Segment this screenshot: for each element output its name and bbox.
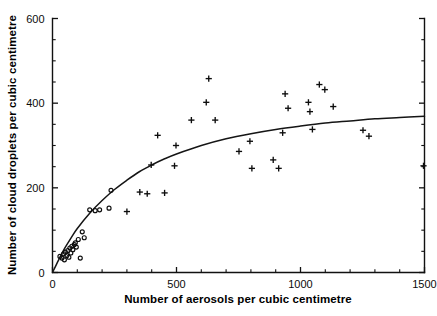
data-point-plus: [307, 109, 313, 115]
data-point-circle: [78, 256, 82, 260]
series-plus: [124, 76, 427, 215]
y-tick-label: 400: [26, 97, 44, 109]
data-point-plus: [276, 165, 282, 171]
data-point-plus: [155, 132, 161, 138]
y-axis-title: Number of cloud droplets per cubic centi…: [6, 15, 18, 275]
y-tick-label: 0: [38, 267, 44, 279]
data-point-plus: [144, 191, 150, 197]
data-point-plus: [280, 130, 286, 136]
series-open-circle: [58, 188, 113, 261]
data-point-plus: [249, 165, 255, 171]
axis-tick-labels: 0500100015000200400600: [26, 13, 437, 290]
axes: [53, 19, 425, 273]
x-tick-label: 1500: [412, 278, 436, 290]
data-point-plus: [188, 117, 194, 123]
data-point-plus: [420, 163, 426, 169]
data-point-plus: [305, 99, 311, 105]
data-point-circle: [98, 208, 102, 212]
data-point-plus: [212, 117, 218, 123]
y-tick-label: 200: [26, 182, 44, 194]
fit-curve: [53, 116, 425, 272]
data-point-plus: [236, 148, 242, 154]
data-point-plus: [366, 133, 372, 139]
x-tick-label: 1000: [288, 278, 312, 290]
data-point-circle: [107, 206, 111, 210]
x-tick-label: 500: [167, 278, 185, 290]
x-axis-title: Number of aerosols per cubic centimetre: [124, 293, 352, 305]
data-point-plus: [309, 126, 315, 132]
axis-ticks: [53, 19, 425, 273]
data-point-plus: [316, 81, 322, 87]
data-point-plus: [124, 208, 130, 214]
data-point-plus: [137, 189, 143, 195]
data-point-circle: [93, 209, 97, 213]
data-markers: [58, 76, 427, 262]
y-tick-label: 600: [26, 13, 44, 25]
data-point-plus: [206, 76, 212, 82]
data-point-plus: [285, 105, 291, 111]
data-point-plus: [322, 87, 328, 93]
data-point-plus: [247, 138, 253, 144]
x-tick-label: 0: [49, 278, 55, 290]
data-point-circle: [82, 236, 86, 240]
data-point-plus: [330, 103, 336, 109]
data-point-plus: [360, 127, 366, 133]
data-point-plus: [173, 142, 179, 148]
data-point-circle: [76, 237, 80, 241]
data-point-plus: [282, 91, 288, 97]
scatter-plot-figure: 0500100015000200400600 Number of aerosol…: [0, 0, 437, 316]
data-point-plus: [270, 157, 276, 163]
data-point-plus: [161, 190, 167, 196]
data-point-circle: [88, 208, 92, 212]
plot-canvas: 0500100015000200400600 Number of aerosol…: [0, 0, 437, 316]
data-point-plus: [203, 99, 209, 105]
data-point-circle: [80, 230, 84, 234]
data-point-plus: [171, 163, 177, 169]
